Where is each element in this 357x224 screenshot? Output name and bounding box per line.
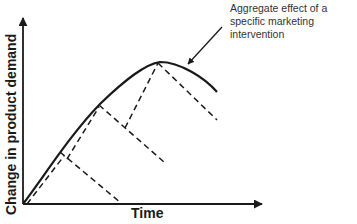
y-axis-label: Change in product demand	[3, 34, 19, 215]
annotation-arrow	[188, 27, 222, 64]
x-axis-label: Time	[131, 205, 163, 221]
annotation-label: Aggregate effect of a specific marketing…	[230, 2, 357, 41]
aggregate-curve	[23, 62, 217, 204]
